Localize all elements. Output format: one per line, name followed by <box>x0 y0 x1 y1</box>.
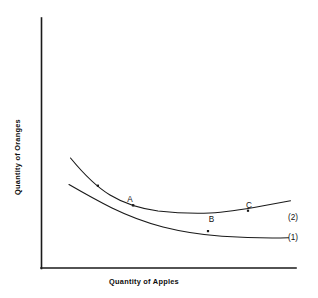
point-b-marker <box>207 230 209 232</box>
curve-two-marker-unlabeled <box>97 185 99 187</box>
point-a-label: A <box>127 195 133 204</box>
point-b-label: B <box>209 215 215 224</box>
curve-one-label: (1) <box>288 233 298 242</box>
x-axis-title: Quantity of Apples <box>109 277 179 286</box>
point-c-label: C <box>246 201 252 210</box>
point-a-marker <box>132 204 134 206</box>
curve-two-label: (2) <box>288 213 298 222</box>
chart-background <box>0 0 318 298</box>
point-c-marker <box>247 210 249 212</box>
y-axis-title: Quantity of Oranges <box>13 119 22 195</box>
indifference-curve-chart: A B C (2) (1) Quantity of Apples Quantit… <box>0 0 318 298</box>
